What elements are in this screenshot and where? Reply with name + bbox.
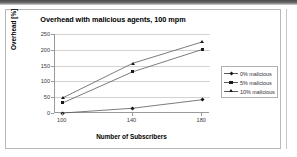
- page-shell: Overhead with malicious agents, 100 mpm …: [0, 5, 297, 157]
- y-tick-mark-0: [51, 113, 54, 114]
- chart-legend: 0% malicious 5% malicious 10% malicious: [221, 66, 278, 98]
- series-line-5pct: [63, 49, 203, 102]
- y-tick-label-250: 250: [28, 31, 50, 37]
- data-point-5pct-180: [201, 48, 204, 51]
- legend-item-10pct[interactable]: 10% malicious: [224, 87, 275, 96]
- legend-label-5pct: 5% malicious: [240, 80, 272, 86]
- legend-label-0pct: 0% malicious: [240, 71, 272, 77]
- legend-label-10pct: 10% malicious: [240, 89, 275, 95]
- x-tick-mark-100: [62, 113, 63, 116]
- x-tick-mark-140: [132, 113, 133, 116]
- plot-wrapper: Overhead [%] 250 200 150 100 50 0: [6, 10, 282, 150]
- x-axis-title: Number of Subscribers: [54, 133, 209, 140]
- legend-marker-triangle-icon: [224, 88, 238, 95]
- series-lines: [55, 34, 210, 113]
- chart-container: Overhead with malicious agents, 100 mpm …: [5, 9, 281, 149]
- data-point-10pct-180: [200, 40, 204, 43]
- legend-marker-square-icon: [224, 79, 238, 86]
- legend-marker-diamond-icon: [224, 70, 238, 77]
- data-point-5pct-100: [61, 101, 64, 104]
- plot-area: [54, 34, 209, 113]
- data-point-10pct-140: [131, 62, 135, 65]
- x-tick-label-100: 100: [47, 117, 77, 123]
- legend-item-0pct[interactable]: 0% malicious: [224, 69, 275, 78]
- x-tick-mark-180: [201, 113, 202, 116]
- data-point-10pct-100: [61, 96, 65, 99]
- y-axis-title: Overhead [%]: [10, 9, 17, 50]
- y-tick-label-200: 200: [28, 47, 50, 53]
- x-tick-label-180: 180: [186, 117, 216, 123]
- x-tick-label-140: 140: [117, 117, 147, 123]
- right-side-panel: [286, 9, 297, 149]
- legend-item-5pct[interactable]: 5% malicious: [224, 78, 275, 87]
- data-point-5pct-140: [131, 70, 134, 73]
- y-tick-label-150: 150: [28, 63, 50, 69]
- y-tick-label-0: 0: [28, 110, 50, 116]
- y-tick-label-100: 100: [28, 78, 50, 84]
- y-tick-label-50: 50: [28, 94, 50, 100]
